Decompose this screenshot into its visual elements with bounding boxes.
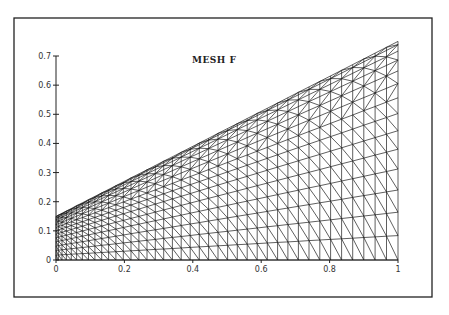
triangular-mesh (56, 41, 398, 260)
y-tick-label: 0.7 (38, 52, 51, 61)
y-tick-label: 0.4 (38, 139, 51, 148)
y-tick-label: 0.5 (38, 110, 51, 119)
y-tick-label: 0.3 (38, 169, 51, 178)
x-tick-label: 0.2 (118, 265, 131, 274)
y-tick-label: 0 (46, 256, 51, 265)
x-tick-label: 0 (53, 265, 58, 274)
axes: 00.10.20.30.40.50.60.700.20.40.60.81 (38, 52, 400, 274)
mesh-figure: MESH F 00.10.20.30.40.50.60.700.20.40.60… (0, 0, 449, 315)
x-tick-label: 0.8 (323, 265, 336, 274)
x-tick-label: 1 (395, 265, 400, 274)
chart-title: MESH F (192, 55, 236, 65)
x-tick-label: 0.4 (186, 265, 199, 274)
x-tick-label: 0.6 (255, 265, 268, 274)
y-tick-label: 0.2 (38, 198, 51, 207)
y-tick-label: 0.6 (38, 81, 51, 90)
mesh-lines (56, 41, 398, 260)
y-tick-label: 0.1 (38, 227, 51, 236)
